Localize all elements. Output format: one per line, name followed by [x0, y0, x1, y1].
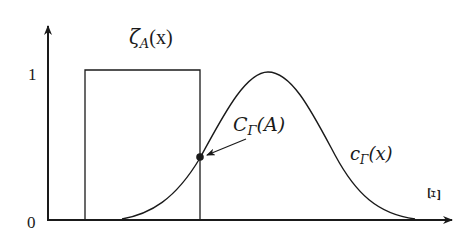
intersection-point	[196, 153, 204, 161]
y-tick-1: 1	[28, 65, 37, 84]
point-label: CΓ(A)	[233, 113, 285, 138]
x-axis-label: Ξ	[424, 187, 444, 201]
pointer-arrow	[207, 139, 246, 155]
curve-label: cΓ(x)	[350, 143, 393, 167]
y-tick-0: 0	[27, 213, 36, 232]
indicator-function-rect	[85, 70, 200, 220]
indicator-label: ζA(x)	[129, 25, 173, 51]
diagram-canvas: 1 0 ζA(x) CΓ(A) cΓ(x) Ξ	[0, 0, 475, 238]
